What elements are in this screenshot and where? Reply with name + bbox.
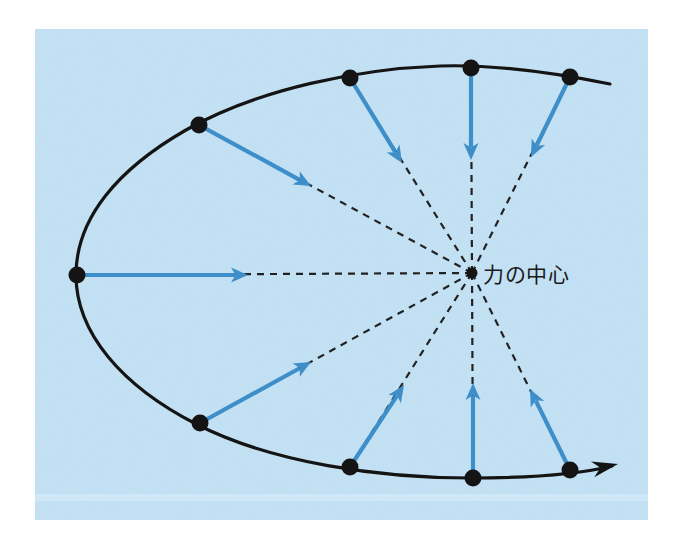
center-of-force-dot	[467, 268, 478, 279]
figure-root: 力の中心	[0, 0, 682, 555]
orbit-point-dot	[562, 69, 579, 86]
orbit-point-dot	[342, 459, 359, 476]
orbit-point-dot	[191, 117, 208, 134]
orbit-point-dot	[69, 267, 86, 284]
orbit-point-dot	[465, 470, 482, 487]
orbit-point-dot	[463, 60, 480, 77]
central-force-diagram: 力の中心	[0, 0, 682, 555]
panel-light-band	[35, 494, 648, 501]
center-of-force-label: 力の中心	[483, 263, 569, 287]
orbit-point-dot	[192, 415, 209, 432]
orbit-point-dot	[562, 462, 579, 479]
orbit-point-dot	[342, 70, 359, 87]
